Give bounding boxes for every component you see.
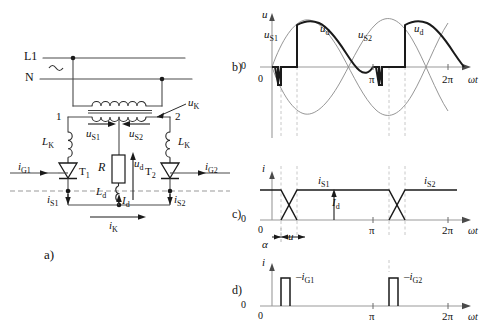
label-terminal-1: 1: [56, 110, 62, 122]
figure-root: L1 N uK 1 2 uS1 uS2 LK LK T1 T2 iG1 iG2 …: [0, 0, 496, 332]
label-is1: iS1: [47, 193, 59, 208]
plot-c-curve-is2: [389, 190, 457, 220]
plot-b-xtick-0: 0: [258, 73, 263, 84]
plot-b-x-label: ωt: [468, 74, 478, 85]
plot-c-alpha-dimension: [272, 235, 281, 240]
plot-b-y-label: u: [262, 8, 268, 20]
plot-b-xtick-pi: π: [369, 73, 375, 85]
plot-b-xtick-2pi: 2π: [442, 73, 453, 85]
plot-b-y-arrow: [269, 13, 275, 21]
transformer-primary-winding: [92, 102, 146, 107]
label-uk: uK: [188, 96, 199, 111]
plot-c-label-is1: iS1: [318, 174, 330, 189]
plot-c-y-label: i: [262, 162, 265, 174]
plot-b-label-us1: uS1: [264, 28, 278, 43]
resistor-r: [112, 155, 125, 183]
plot-d-zero-label: 0: [241, 299, 246, 310]
plot-d-xtick-pi: π: [369, 310, 375, 322]
plot-c-label-is2: iS2: [424, 174, 436, 189]
plot-c-xtick-0: 0: [258, 224, 263, 235]
plot-c-x-arrow: [462, 217, 471, 223]
plot-c-alpha-label: α: [262, 238, 268, 250]
plot-d-label-ig1: –iG1: [296, 270, 314, 285]
plot-d-y-label: i: [262, 256, 265, 268]
id-arrow: [116, 194, 122, 204]
label-lk-right: LK: [178, 135, 190, 150]
label-n: N: [25, 70, 34, 85]
is2-arrow: [167, 194, 172, 205]
plot-d-y-arrow: [269, 263, 275, 271]
junction-dot-t1-cathode: [66, 189, 71, 194]
ik-arrow: [90, 214, 146, 220]
plot-d-pulse-ig1: [281, 278, 290, 306]
inductor-lk-right: [166, 132, 170, 163]
plot-c-xtick-pi: π: [369, 224, 375, 236]
label-id: Id: [122, 194, 130, 209]
transformer-core: [88, 111, 152, 114]
plot-b-label-ud-2: ud: [414, 22, 424, 37]
label-lk-left: LK: [42, 135, 54, 150]
label-ig1: iG1: [18, 160, 31, 175]
plot-c-x-label: ωt: [468, 225, 478, 236]
is1-arrow: [65, 194, 70, 205]
label-terminal-2: 2: [175, 110, 181, 122]
label-us1: uS1: [86, 127, 100, 142]
junction-dot-n: [160, 77, 165, 82]
plot-b-label-us2: uS2: [358, 28, 372, 43]
plot-c-gridlines: [281, 166, 405, 236]
label-us2: uS2: [129, 127, 143, 142]
label-ld: Ld: [96, 185, 106, 200]
label-ik: iK: [109, 219, 118, 234]
plot-c-xtick-2pi: 2π: [442, 224, 453, 236]
plot-c-overlap-label: u: [288, 230, 294, 242]
plot-b-label-ud-1: ud: [320, 22, 330, 37]
panel-label-c: c): [232, 207, 241, 222]
plot-d-x-arrow: [462, 303, 471, 309]
plot-c-label-id: Id: [332, 196, 340, 211]
label-t2: T2: [145, 165, 156, 180]
plot-d-xtick-0: 0: [258, 310, 263, 321]
plot-c-zero-label: 0: [241, 213, 246, 224]
label-ud: ud: [134, 157, 144, 172]
panel-label-a: a): [44, 247, 54, 263]
label-l1: L1: [24, 49, 37, 64]
inductor-lk-left: [68, 132, 72, 163]
plot-d-pulse-ig2: [389, 278, 398, 306]
label-ig2: iG2: [205, 160, 218, 175]
ac-source-icon: [49, 66, 63, 71]
plot-d-xtick-2pi: 2π: [442, 310, 453, 322]
label-is2: iS2: [174, 193, 186, 208]
plot-d-x-label: ωt: [468, 311, 478, 322]
junction-dot-l1: [71, 56, 76, 61]
plot-c-curve-is1: [281, 190, 405, 220]
plot-c-curve-is2-start: [260, 190, 297, 220]
plot-d-label-ig2: –iG2: [404, 270, 422, 285]
panel-label-d: d): [232, 283, 242, 298]
plot-c-y-arrow: [269, 171, 275, 179]
label-r: R: [98, 160, 105, 175]
label-t1: T1: [79, 165, 90, 180]
junction-dot-t2-cathode: [168, 189, 173, 194]
plot-b-zero-label: 0: [241, 60, 246, 71]
